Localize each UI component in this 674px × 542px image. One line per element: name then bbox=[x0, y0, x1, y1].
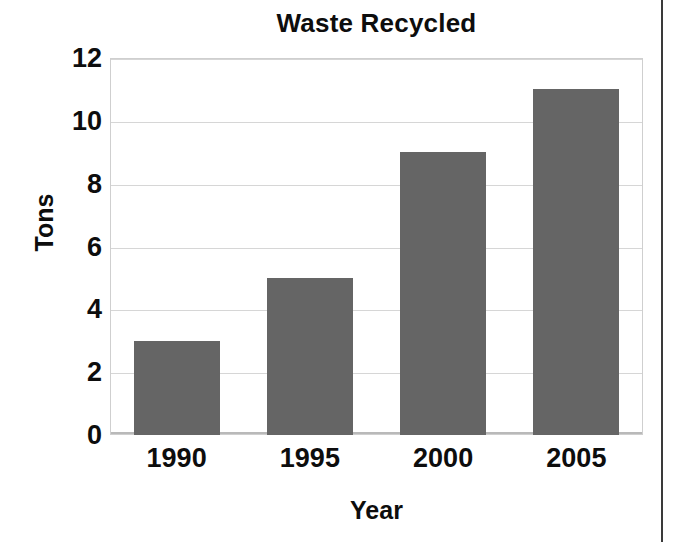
y-axis-tick-labels: 024681012 bbox=[0, 58, 102, 435]
bar bbox=[400, 152, 486, 435]
bars-layer bbox=[110, 58, 643, 435]
x-tick-label: 1990 bbox=[110, 443, 243, 474]
x-tick-label: 1995 bbox=[243, 443, 376, 474]
x-axis-title: Year bbox=[110, 496, 643, 525]
bar bbox=[267, 278, 353, 435]
bar-chart-figure: Waste Recycled Tons 024681012 1990199520… bbox=[0, 0, 674, 542]
y-tick-label: 12 bbox=[10, 45, 102, 72]
bar bbox=[134, 341, 220, 435]
x-tick-label: 2005 bbox=[510, 443, 643, 474]
y-tick-label: 6 bbox=[10, 233, 102, 260]
y-tick-label: 8 bbox=[10, 170, 102, 197]
y-tick-label: 4 bbox=[10, 296, 102, 323]
y-tick-label: 2 bbox=[10, 359, 102, 386]
bar bbox=[533, 89, 619, 435]
y-tick-label: 0 bbox=[10, 422, 102, 449]
page-edge-rule bbox=[661, 0, 663, 542]
chart-title: Waste Recycled bbox=[110, 8, 643, 39]
x-axis-tick-labels: 1990199520002005 bbox=[110, 443, 643, 485]
y-tick-label: 10 bbox=[10, 107, 102, 134]
x-tick-label: 2000 bbox=[377, 443, 510, 474]
